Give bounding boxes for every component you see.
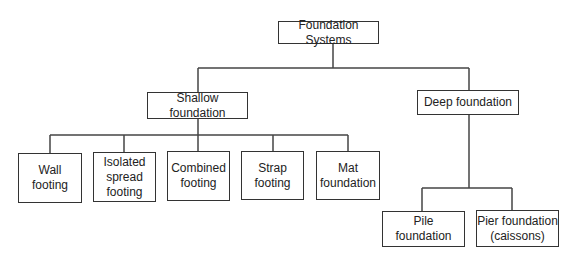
node-wall-footing: Wall footing xyxy=(18,153,82,203)
node-isolated-spread-footing: Isolated spread footing xyxy=(93,152,156,202)
node-combined-footing: Combined footing xyxy=(167,151,230,201)
node-strap-footing: Strap footing xyxy=(241,151,304,200)
node-shallow-foundation: Shallow foundation xyxy=(147,92,248,119)
node-pile-foundation: Pile foundation xyxy=(382,211,465,247)
node-pier-foundation: Pier foundation (caissons) xyxy=(476,210,559,247)
node-deep-foundation: Deep foundation xyxy=(417,90,519,115)
node-foundation-systems: Foundation Systems xyxy=(278,21,379,44)
node-mat-foundation: Mat foundation xyxy=(316,151,380,200)
